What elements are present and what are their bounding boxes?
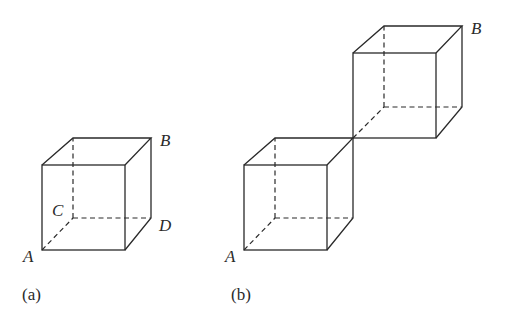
- figure-canvas: B C D A (a) B A (b): [0, 0, 509, 325]
- label-b-B: B: [471, 19, 482, 38]
- top-face-edges: [353, 26, 462, 53]
- hidden-edge: [244, 218, 275, 250]
- label-a-B: B: [160, 131, 171, 150]
- label-a-D: D: [158, 216, 172, 235]
- cube-a: [42, 138, 151, 250]
- hidden-edge: [42, 218, 73, 250]
- label-a-A: A: [22, 247, 34, 266]
- label-a-C: C: [52, 201, 64, 220]
- caption-a: (a): [22, 285, 41, 304]
- right-face-edges: [327, 138, 353, 250]
- top-face-edges: [244, 138, 353, 165]
- right-face-edges: [436, 26, 462, 138]
- hidden-edge: [353, 107, 384, 138]
- label-b-A: A: [224, 247, 236, 266]
- cube-b-lower: [244, 138, 353, 250]
- right-face-edges: [125, 138, 151, 250]
- caption-b: (b): [231, 285, 251, 304]
- cube-b-upper: [353, 26, 462, 138]
- top-face-edges: [42, 138, 151, 165]
